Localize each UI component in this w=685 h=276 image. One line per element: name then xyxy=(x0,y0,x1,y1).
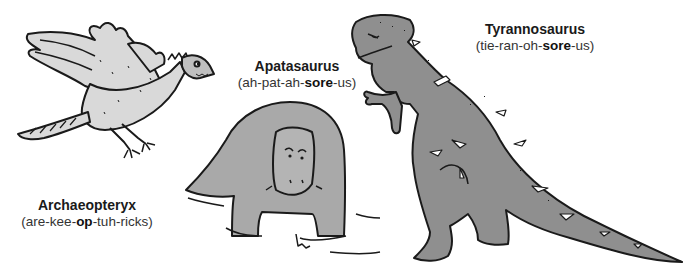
archaeopteryx-drawing xyxy=(18,23,214,158)
pron-stressed-syllable: sore xyxy=(543,38,572,53)
tyrannosaurus-name: Tyrannosaurus xyxy=(450,21,620,38)
archaeopteryx-label: Archaeopteryx (are-kee-op-tuh-ricks) xyxy=(2,197,172,230)
apatasaurus-pronunciation: (ah-pat-ah-sore-us) xyxy=(222,75,372,91)
pron-part: (tie-ran-oh- xyxy=(476,38,543,53)
archaeopteryx-pronunciation: (are-kee-op-tuh-ricks) xyxy=(2,214,172,230)
pron-part: -tuh-ricks) xyxy=(93,214,153,229)
pron-stressed-syllable: sore xyxy=(305,75,334,90)
apatasaurus-name: Apatasaurus xyxy=(222,58,372,75)
clipped-text-fragment xyxy=(24,271,184,276)
pron-part: (ah-pat-ah- xyxy=(238,75,305,90)
pron-part: -us) xyxy=(571,38,594,53)
apatasaurus-drawing xyxy=(186,102,380,254)
apatasaurus-label: Apatasaurus (ah-pat-ah-sore-us) xyxy=(222,58,372,91)
pron-stressed-syllable: op xyxy=(76,214,93,229)
tyrannosaurus-pronunciation: (tie-ran-oh-sore-us) xyxy=(450,38,620,54)
pron-part: (are-kee- xyxy=(21,214,76,229)
pron-part: -us) xyxy=(333,75,356,90)
archaeopteryx-name: Archaeopteryx xyxy=(2,197,172,214)
tyrannosaurus-label: Tyrannosaurus (tie-ran-oh-sore-us) xyxy=(450,21,620,54)
